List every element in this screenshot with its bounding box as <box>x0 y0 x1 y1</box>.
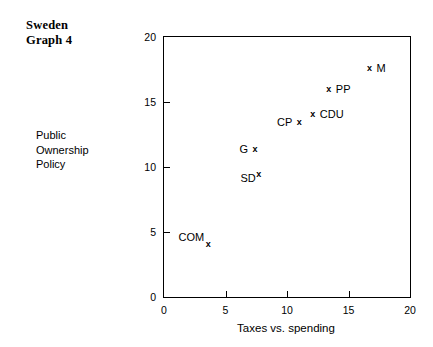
data-point-marker: x <box>204 240 212 248</box>
chart-title: Sweden Graph 4 <box>26 18 72 48</box>
chart-title-line-2: Graph 4 <box>26 33 72 48</box>
y-axis-tick <box>164 167 170 168</box>
x-axis-tick-label: 15 <box>343 305 355 316</box>
x-axis-tick <box>226 291 227 297</box>
data-point-label: G <box>239 144 248 155</box>
data-point-label: COM <box>179 232 205 243</box>
y-axis-tick-label: 0 <box>150 292 156 303</box>
chart-page: Sweden Graph 4 Public Ownership Policy 0… <box>0 0 433 347</box>
y-axis-tick-label: 20 <box>144 32 156 43</box>
data-point-marker: x <box>365 64 373 72</box>
y-axis-tick <box>164 102 170 103</box>
plot-frame: 0510152005101520xCOMxSDxGxCPxCDUxPPxM <box>163 36 411 298</box>
y-axis-tick-label: 5 <box>150 227 156 238</box>
chart-title-line-1: Sweden <box>26 18 72 33</box>
y-axis-tick-label: 10 <box>144 162 156 173</box>
data-point-marker: x <box>325 85 333 93</box>
x-axis-title: Taxes vs. spending <box>163 322 409 334</box>
data-point-label: M <box>376 63 385 74</box>
data-point-label: CDU <box>320 109 344 120</box>
x-axis-tick-label: 5 <box>223 305 229 316</box>
y-axis-tick <box>164 232 170 233</box>
y-axis-description-line-3: Policy <box>36 157 89 172</box>
data-point-label: CP <box>277 117 292 128</box>
x-axis-tick-label: 0 <box>161 305 167 316</box>
plot-area: 0510152005101520xCOMxSDxGxCPxCDUxPPxM <box>164 37 410 297</box>
data-point-label: SD <box>240 173 255 184</box>
x-axis-tick <box>287 291 288 297</box>
data-point-marker: x <box>309 110 317 118</box>
y-axis-description-line-1: Public <box>36 128 89 143</box>
y-axis-description-line-2: Ownership <box>36 143 89 158</box>
data-point-marker: x <box>295 118 303 126</box>
data-point-label: PP <box>336 84 351 95</box>
y-axis-description: Public Ownership Policy <box>36 128 89 172</box>
x-axis-tick-label: 10 <box>281 305 293 316</box>
x-axis-tick-label: 20 <box>404 305 416 316</box>
x-axis-tick <box>349 291 350 297</box>
y-axis-tick-label: 15 <box>144 97 156 108</box>
data-point-marker: x <box>251 145 259 153</box>
